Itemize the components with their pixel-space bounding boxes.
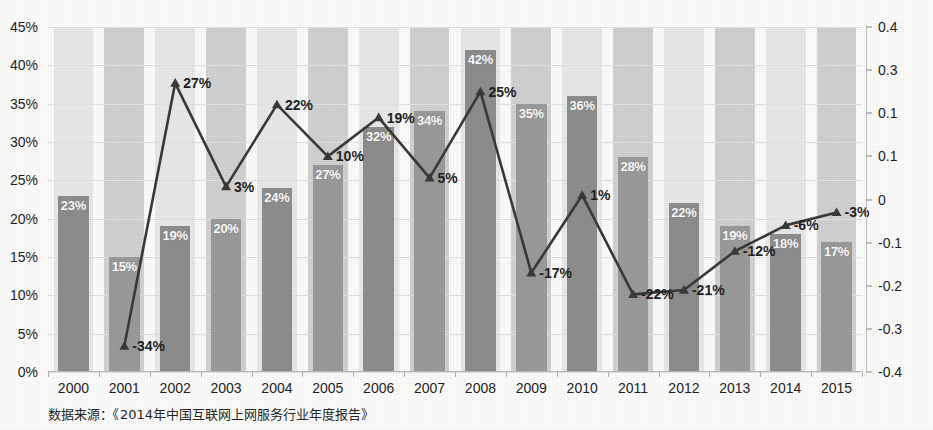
y-axis-left-tick: 10% [10,287,38,303]
line-value-label: -22% [641,287,674,301]
y-axis-right-tick: 0.3 [878,62,897,78]
line-value-label: 1% [590,188,610,202]
x-axis-tick-label: 2013 [719,380,750,396]
x-axis: 2000200120022003200420052006200720082009… [48,372,862,402]
y-axis-right-tick: -0.1 [878,235,902,251]
x-axis-tickmark [709,372,710,377]
x-axis-tick-label: 2009 [516,380,547,396]
line-value-label: -21% [692,283,725,297]
x-axis-tickmark [404,372,405,377]
y-axis-left-tick: 15% [10,249,38,265]
x-axis-tickmark [150,372,151,377]
y-axis-right-tick: 0.1 [878,148,897,164]
line-value-label: 3% [234,180,254,194]
line-path [124,83,836,346]
x-axis-tickmark [608,372,609,377]
y-axis-left-tick: 25% [10,172,38,188]
y-axis-right-tickmark [866,242,872,243]
y-axis-right-tickmark [866,199,872,200]
y-axis-right-tick: 0.4 [878,19,897,35]
x-axis-tickmark [201,372,202,377]
x-axis-tick-label: 2001 [109,380,140,396]
x-axis-tickmark [862,372,863,377]
y-axis-left-tick: 40% [10,57,38,73]
line-value-label: -17% [539,266,572,280]
line-marker-triangle [119,341,129,350]
line-value-label: 27% [183,76,211,90]
plot-area: 23%15%19%20%24%27%32%34%42%35%36%28%22%1… [48,27,862,372]
y-axis-right-tickmark [866,70,872,71]
x-axis-tick-label: 2006 [363,380,394,396]
x-axis-tick-label: 2010 [567,380,598,396]
x-axis-tick-label: 2005 [312,380,343,396]
y-axis-right-tick: -0.4 [878,364,902,380]
line-value-label: 25% [488,85,516,99]
x-axis-tick-label: 2012 [668,380,699,396]
x-axis-tick-label: 2007 [414,380,445,396]
y-axis-right-tick: -0.3 [878,321,902,337]
line-marker-triangle [832,207,842,216]
y-axis-right-tick: 0 [878,192,886,208]
y-axis-left-tick: 20% [10,211,38,227]
x-axis-tick-label: 2015 [821,380,852,396]
line-marker-triangle [475,87,485,96]
x-axis-tickmark [557,372,558,377]
x-axis-tick-label: 2003 [210,380,241,396]
y-axis-right-tickmark [866,27,872,28]
x-axis-tick-label: 2008 [465,380,496,396]
line-marker-triangle [577,190,587,199]
x-axis-tickmark [48,372,49,377]
y-axis-right-tickmark [866,113,872,114]
line-value-label: 19% [387,111,415,125]
chart-container: 0%5%10%15%20%25%30%35%40%45% 23%15%19%20… [0,0,933,430]
x-axis-tick-label: 2000 [58,380,89,396]
y-axis-right-tickmark [866,156,872,157]
line-series [48,27,862,372]
y-axis-left-tick: 45% [10,19,38,35]
line-value-label: -6% [794,218,819,232]
x-axis-tickmark [811,372,812,377]
x-axis-tickmark [659,372,660,377]
line-marker-triangle [170,78,180,87]
y-axis-right-tick: 0.1 [878,105,897,121]
line-value-label: 10% [336,149,364,163]
y-axis-left-tick: 0% [18,364,38,380]
line-value-label: 5% [438,171,458,185]
x-axis-tickmark [760,372,761,377]
line-value-label: -12% [743,244,776,258]
y-axis-right-tick: -0.2 [878,278,902,294]
line-marker-triangle [272,100,282,109]
y-axis-left-tick: 35% [10,96,38,112]
x-axis-tickmark [302,372,303,377]
line-value-label: 22% [285,98,313,112]
x-axis-tickmark [353,372,354,377]
x-axis-tick-label: 2011 [618,380,648,396]
line-value-label: -34% [132,339,165,353]
x-axis-tick-label: 2002 [160,380,191,396]
y-axis-right-tickmark [866,328,872,329]
y-axis-left-tick: 30% [10,134,38,150]
x-axis-tickmark [99,372,100,377]
x-axis-tick-label: 2014 [770,380,801,396]
y-axis-right-tickmark [866,372,872,373]
source-note: 数据来源：《2014年中国互联网上网服务行业年度报告》 [48,404,374,423]
y-axis-left-tick: 5% [18,326,38,342]
x-axis-tick-label: 2004 [261,380,292,396]
x-axis-tickmark [252,372,253,377]
y-axis-left: 0%5%10%15%20%25%30%35%40%45% [0,27,44,372]
line-marker-triangle [374,113,384,122]
y-axis-right-tickmark [866,285,872,286]
y-axis-right: 0.40.30.10.10-0.1-0.2-0.3-0.4 [866,27,933,372]
x-axis-tickmark [455,372,456,377]
x-axis-tickmark [506,372,507,377]
